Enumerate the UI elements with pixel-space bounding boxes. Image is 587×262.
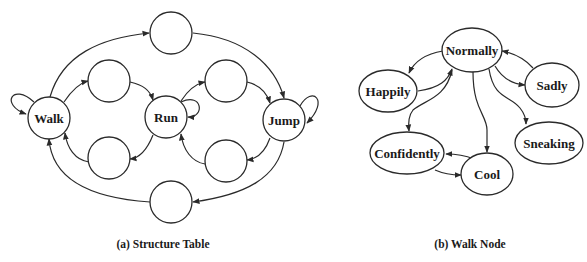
node-normally-label: Normally [446, 43, 499, 58]
edge-normally-to-cool [473, 72, 487, 152]
edge-normally-to-sneaking [489, 69, 526, 124]
edge-normally-to-sadly [495, 66, 525, 85]
edge-run-to-upper-right [181, 82, 205, 101]
node-jump: Jump [263, 99, 305, 141]
node-bottom [150, 181, 192, 223]
edge-jump-to-lower-right [247, 138, 270, 160]
node-cool-label: Cool [474, 167, 500, 182]
walk-node-diagram: Normally Happily Sadly Sneaking Confiden… [359, 28, 583, 251]
node-top [150, 12, 192, 54]
node-sneaking-label: Sneaking [523, 136, 575, 151]
node-walk: Walk [28, 97, 70, 139]
node-walk-label: Walk [34, 111, 64, 126]
edge-confidently-to-cool [435, 170, 461, 175]
edge-happily-to-normally [418, 69, 452, 91]
node-normally: Normally [442, 28, 502, 72]
caption-walk-node: (b) Walk Node [434, 238, 505, 251]
edge-walk-to-upper-left [64, 81, 88, 102]
node-lower-left [88, 137, 130, 179]
node-sadly: Sadly [525, 63, 579, 107]
caption-structure-table: (a) Structure Table [116, 238, 209, 251]
node-cool: Cool [461, 153, 513, 195]
edge-lower-left-to-walk [65, 133, 89, 162]
edge-sadly-to-normally [502, 51, 533, 68]
edge-lower-right-to-run [181, 134, 205, 164]
node-sneaking: Sneaking [515, 122, 583, 164]
node-confidently: Confidently [370, 132, 444, 174]
structure-table-diagram: Walk Run Jump (a) Structure Table [11, 12, 318, 251]
figure-canvas: Walk Run Jump (a) Structure Table [0, 0, 587, 262]
edge-upper-left-to-run [130, 82, 153, 100]
edge-run-to-lower-left [130, 135, 153, 159]
node-upper-left [88, 60, 130, 102]
node-jump-label: Jump [268, 113, 300, 128]
node-run-label: Run [154, 110, 179, 125]
node-upper-right [205, 60, 247, 102]
node-happily: Happily [359, 70, 417, 112]
node-happily-label: Happily [366, 84, 411, 99]
node-sadly-label: Sadly [536, 78, 568, 93]
edge-upper-right-to-jump [247, 82, 270, 103]
edge-normally-to-happily [409, 51, 443, 73]
node-lower-right [205, 140, 247, 182]
node-run: Run [145, 96, 187, 138]
node-confidently-label: Confidently [374, 146, 440, 161]
